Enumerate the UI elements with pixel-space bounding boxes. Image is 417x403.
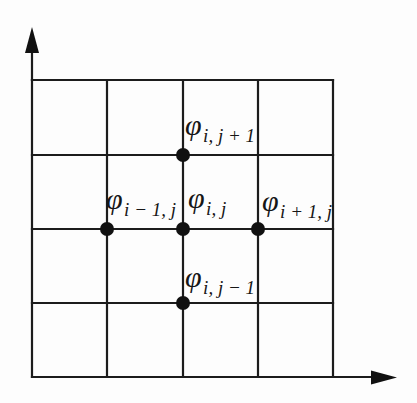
grid-point-left bbox=[100, 222, 114, 236]
phi-subscript: i + 1, j bbox=[280, 201, 332, 222]
label-phi-right: φi + 1, j bbox=[262, 186, 331, 216]
label-phi-top: φi, j + 1 bbox=[185, 110, 254, 140]
phi-subscript: i, j − 1 bbox=[203, 277, 255, 298]
label-phi-bottom: φi, j − 1 bbox=[185, 262, 254, 292]
phi-subscript: i − 1, j bbox=[124, 199, 176, 220]
grid-point-bottom bbox=[176, 296, 190, 310]
phi-subscript: i, j + 1 bbox=[203, 125, 255, 146]
stencil-diagram: φi, j + 1 φi − 1, j φi, j φi + 1, j φi, … bbox=[0, 0, 417, 403]
phi-symbol: φ bbox=[185, 260, 202, 293]
label-phi-center: φi, j bbox=[188, 183, 225, 213]
phi-symbol: φ bbox=[185, 108, 202, 141]
x-axis-arrowhead-icon bbox=[371, 371, 397, 385]
phi-symbol: φ bbox=[106, 182, 123, 215]
phi-symbol: φ bbox=[262, 184, 279, 217]
phi-symbol: φ bbox=[188, 181, 205, 214]
label-phi-left: φi − 1, j bbox=[106, 184, 175, 214]
grid-point-top bbox=[176, 148, 190, 162]
grid-point-right bbox=[251, 222, 265, 236]
grid-point-center bbox=[176, 222, 190, 236]
phi-subscript: i, j bbox=[206, 198, 226, 219]
y-axis-arrowhead-icon bbox=[25, 27, 39, 53]
